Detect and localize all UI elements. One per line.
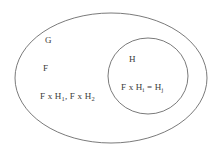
products-subscript-two: 2 [91, 95, 94, 102]
outer-set-ellipse [15, 13, 207, 143]
relation-subscript-j: j [161, 86, 163, 93]
inner-set-subgroup-label: H [129, 55, 136, 64]
products-prefix-text: F x H [40, 91, 62, 101]
inner-set-relation-label: F x Hi = Hj [121, 83, 163, 92]
products-separator-text: , F x H [65, 91, 91, 101]
relation-subscript-i: i [143, 86, 145, 93]
products-subscript-one: 1 [62, 95, 65, 102]
inner-set-ellipse [108, 38, 188, 114]
venn-diagram-canvas [0, 0, 218, 155]
outer-set-group-label: G [45, 36, 52, 45]
outer-set-products-label: F x H1, F x H2 [40, 92, 95, 101]
outer-set-subgroup-label: F [43, 64, 48, 73]
relation-prefix-text: F x H [121, 82, 143, 92]
venn-diagram: G F F x H1, F x H2 H F x Hi = Hj [0, 0, 218, 155]
relation-equals-text: = H [145, 82, 162, 92]
